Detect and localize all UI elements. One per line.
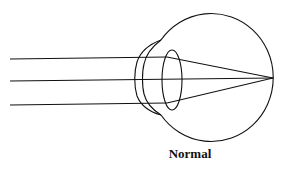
diagram-caption: Normal <box>148 146 232 162</box>
eye-diagram <box>0 0 281 171</box>
light-ray-middle <box>10 78 273 81</box>
refracted-ray-bottom <box>167 78 273 103</box>
eyeball-outline <box>161 14 273 142</box>
light-ray-bottom <box>10 103 167 105</box>
light-ray-top <box>10 57 167 59</box>
refracted-ray-top <box>167 57 273 78</box>
